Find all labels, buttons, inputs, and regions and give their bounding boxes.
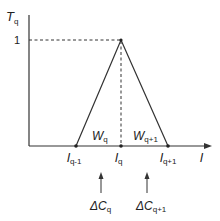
y-axis-label: Tq	[6, 9, 18, 26]
node-dot-q	[119, 144, 123, 148]
region-label-wq: Wq	[92, 129, 108, 144]
x-axis-arrowhead-icon	[204, 143, 212, 149]
region-label-wq+1: Wq+1	[133, 129, 158, 144]
x-axis-label: l	[200, 150, 204, 165]
node-dot-q-1	[74, 144, 78, 148]
hat-function	[76, 40, 168, 146]
apex-dot	[119, 38, 122, 41]
node-dot-q+1	[166, 144, 170, 148]
delta-cq-label: ΔCq	[89, 199, 111, 214]
node-label-q+1: lq+1	[160, 150, 177, 166]
basis-function-diagram: Tq 1 l lq-1 lq lq+1 Wq Wq+1 ΔCq ΔCq+1	[0, 0, 220, 221]
y-tick-one: 1	[14, 34, 20, 46]
arrow-up-icon	[99, 172, 104, 179]
arrow-up-icon	[145, 172, 150, 179]
delta-cq+1-label: ΔCq+1	[135, 199, 167, 214]
node-label-q-1: lq-1	[67, 150, 82, 166]
node-label-q: lq	[115, 150, 122, 166]
